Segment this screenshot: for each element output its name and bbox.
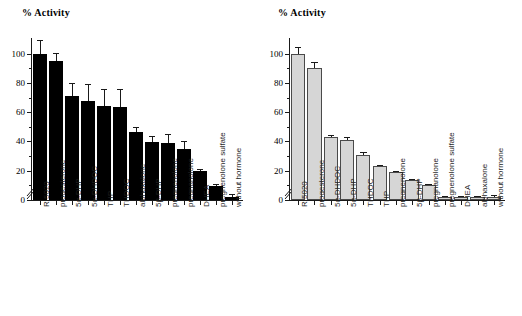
- error-bar-cap: [360, 152, 366, 153]
- error-bar-cap: [165, 134, 171, 135]
- y-tick-major: [285, 83, 289, 84]
- error-bar-cap: [197, 169, 203, 170]
- y-axis-line: [289, 38, 290, 201]
- error-bar-cap: [85, 84, 91, 85]
- bar-group[interactable]: [97, 106, 111, 200]
- x-tick: [445, 201, 446, 205]
- y-tick-label: 0: [5, 196, 25, 205]
- error-bar-cap: [377, 165, 383, 166]
- y-tick-major: [285, 54, 289, 55]
- y-tick-label: 100: [263, 50, 283, 59]
- bar[interactable]: [291, 54, 305, 200]
- y-tick-major: [27, 141, 31, 142]
- y-tick-label: 80: [263, 79, 283, 88]
- error-bar: [40, 40, 41, 54]
- y-tick-label: 60: [263, 108, 283, 117]
- chart-panel-right: % Activity 020406080100R 5020progesteron…: [261, 0, 522, 316]
- y-tick-major: [27, 200, 31, 201]
- x-axis-category-label: without hormone: [497, 148, 505, 207]
- y-tick-minor: [287, 68, 290, 69]
- x-tick: [331, 201, 332, 205]
- bar-group[interactable]: [291, 54, 305, 200]
- y-tick-label: 40: [5, 137, 25, 146]
- x-tick: [429, 201, 430, 205]
- error-bar: [56, 53, 57, 60]
- x-axis-category-label: pregnenolone sulfate: [448, 132, 456, 207]
- error-bar-cap: [311, 62, 317, 63]
- x-tick: [40, 201, 41, 205]
- x-axis-category-label: without hormone: [235, 148, 243, 207]
- bar[interactable]: [97, 106, 111, 200]
- y-tick-major: [285, 171, 289, 172]
- x-tick: [396, 201, 397, 205]
- x-tick: [232, 201, 233, 205]
- error-bar: [72, 83, 73, 96]
- y-tick-major: [285, 112, 289, 113]
- error-bar-cap: [149, 136, 155, 137]
- x-tick: [120, 201, 121, 205]
- y-tick-major: [27, 83, 31, 84]
- y-tick-minor: [287, 98, 290, 99]
- error-bar-cap: [133, 127, 139, 128]
- y-tick-label: 60: [5, 108, 25, 117]
- x-tick: [104, 201, 105, 205]
- x-tick: [494, 201, 495, 205]
- x-tick: [314, 201, 315, 205]
- y-tick-major: [27, 54, 31, 55]
- y-tick-major: [285, 141, 289, 142]
- chart-panel-left: % Activity 020406080100R 5020progesteron…: [0, 0, 261, 316]
- y-tick-minor: [29, 98, 32, 99]
- error-bar-cap: [344, 137, 350, 138]
- x-tick: [152, 201, 153, 205]
- y-tick-minor: [29, 156, 32, 157]
- y-tick-minor: [29, 68, 32, 69]
- x-tick: [298, 201, 299, 205]
- x-tick: [56, 201, 57, 205]
- y-tick-label: 100: [5, 50, 25, 59]
- y-tick-label: 40: [263, 137, 283, 146]
- x-tick: [168, 201, 169, 205]
- y-tick-label: 80: [5, 79, 25, 88]
- y-tick-major: [27, 171, 31, 172]
- error-bar-cap: [117, 89, 123, 90]
- y-tick-label: 0: [263, 196, 283, 205]
- error-bar-cap: [69, 83, 75, 84]
- y-tick-label: 20: [263, 167, 283, 176]
- error-bar-cap: [37, 40, 43, 41]
- error-bar: [88, 84, 89, 101]
- error-bar: [120, 89, 121, 107]
- y-tick-major: [285, 200, 289, 201]
- x-axis-category-label: DHEA: [464, 185, 472, 207]
- x-tick: [136, 201, 137, 205]
- x-tick: [380, 201, 381, 205]
- y-axis-line: [31, 38, 32, 201]
- error-bar-cap: [53, 53, 59, 54]
- x-axis-category-label: alphaxalone: [481, 164, 489, 207]
- x-tick: [478, 201, 479, 205]
- panel-left-plot-area: 020406080100R 5020progesterone5α-DHP5α-D…: [0, 0, 261, 316]
- y-tick-minor: [287, 127, 290, 128]
- y-tick-label: 20: [5, 167, 25, 176]
- x-tick: [363, 201, 364, 205]
- error-bar: [168, 134, 169, 144]
- x-tick: [72, 201, 73, 205]
- x-tick: [216, 201, 217, 205]
- error-bar-cap: [328, 135, 334, 136]
- x-tick: [184, 201, 185, 205]
- x-tick: [412, 201, 413, 205]
- x-tick: [200, 201, 201, 205]
- error-bar-cap: [181, 141, 187, 142]
- x-tick: [347, 201, 348, 205]
- x-axis-category-label: pregnenolone sulfate: [219, 132, 227, 207]
- error-bar: [104, 89, 105, 106]
- error-bar: [184, 141, 185, 149]
- y-tick-minor: [287, 156, 290, 157]
- x-tick: [88, 201, 89, 205]
- bar-group[interactable]: [33, 54, 47, 200]
- panel-right-plot-area: 020406080100R 5020progesterone5α-DHDOC5α…: [261, 0, 522, 316]
- bar[interactable]: [33, 54, 47, 200]
- y-tick-major: [27, 112, 31, 113]
- y-tick-minor: [29, 127, 32, 128]
- error-bar-cap: [101, 89, 107, 90]
- error-bar-cap: [295, 47, 301, 48]
